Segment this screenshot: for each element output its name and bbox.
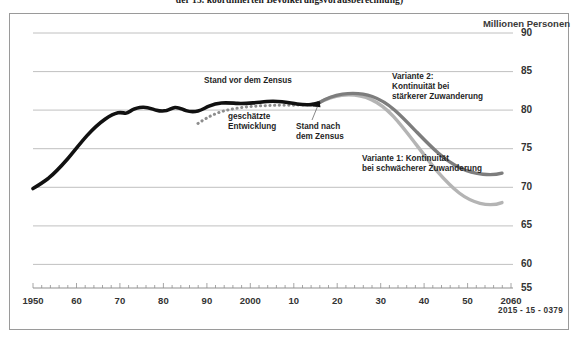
x-tick-2020: 20 <box>317 295 357 306</box>
y-tick-65: 65 <box>521 219 547 230</box>
x-tick-1970: 70 <box>100 295 140 306</box>
figure-code: 2015 - 15 - 0379 <box>498 306 563 315</box>
annotation-variante-2: Variante 2: Kontinuität bei stärkerer Zu… <box>392 72 483 102</box>
x-tick-2010: 10 <box>274 295 314 306</box>
population-projection-figure: der 13. koordinierten Bevölkerungsvoraus… <box>0 0 579 342</box>
y-tick-55: 55 <box>521 282 547 293</box>
series-line-variante-1 <box>319 95 503 205</box>
x-tick-2000: 2000 <box>230 295 270 306</box>
x-tick-2060: 2060 <box>491 295 531 306</box>
x-tick-2050: 50 <box>448 295 488 306</box>
y-tick-60: 60 <box>521 258 547 269</box>
y-tick-80: 80 <box>521 104 547 115</box>
x-tick-2030: 30 <box>361 295 401 306</box>
x-tick-1990: 90 <box>187 295 227 306</box>
y-tick-90: 90 <box>521 27 547 38</box>
annotation-stand-vor-dem-zensus: Stand vor dem Zensus <box>204 76 292 86</box>
x-tick-1950: 1950 <box>13 295 53 306</box>
y-tick-75: 75 <box>521 142 547 153</box>
x-axis <box>33 283 513 288</box>
annotation-geschaetzte-entwicklung: geschätzte Entwicklung <box>228 112 276 132</box>
y-tick-85: 85 <box>521 65 547 76</box>
x-tick-1960: 60 <box>57 295 97 306</box>
annotation-stand-nach-dem-zensus: Stand nach dem Zensus <box>296 122 344 142</box>
gridlines <box>33 33 513 264</box>
x-tick-2040: 40 <box>404 295 444 306</box>
x-tick-1980: 80 <box>143 295 183 306</box>
stand-nach-dem-zensus-leader-line <box>312 107 318 121</box>
y-tick-70: 70 <box>521 181 547 192</box>
plot-canvas <box>0 0 579 342</box>
annotation-variante-1: Variante 1: Kontinuität bei schwächerer … <box>362 154 482 174</box>
